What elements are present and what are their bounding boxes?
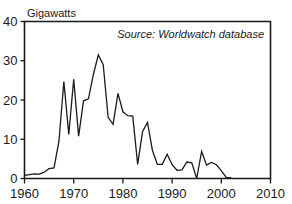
y-tick-label: 10	[3, 132, 17, 147]
line-chart: Gigawatts 010203040 19601970198019902000…	[0, 0, 292, 204]
y-tick-label: 30	[3, 53, 17, 68]
source-annotation: Source: Worldwatch database	[117, 28, 264, 40]
chart-figure: Gigawatts 010203040 19601970198019902000…	[0, 0, 292, 204]
y-axis-ticks: 010203040	[3, 14, 24, 186]
y-tick-label: 20	[3, 93, 17, 108]
y-tick-label: 40	[3, 14, 17, 29]
x-tick-label: 1980	[108, 186, 137, 201]
plot-frame	[25, 22, 271, 179]
y-axis-label: Gigawatts	[27, 7, 76, 19]
x-axis-ticks: 196019701980199020002010	[10, 179, 285, 201]
y-tick-label: 0	[10, 171, 17, 186]
x-tick-label: 1960	[10, 186, 39, 201]
data-series-group	[25, 55, 232, 179]
x-tick-label: 2010	[256, 186, 285, 201]
data-line-series-0	[25, 55, 232, 179]
x-tick-label: 1990	[158, 186, 187, 201]
x-tick-label: 2000	[207, 186, 236, 201]
x-tick-label: 1970	[59, 186, 88, 201]
frame-border	[25, 22, 271, 179]
